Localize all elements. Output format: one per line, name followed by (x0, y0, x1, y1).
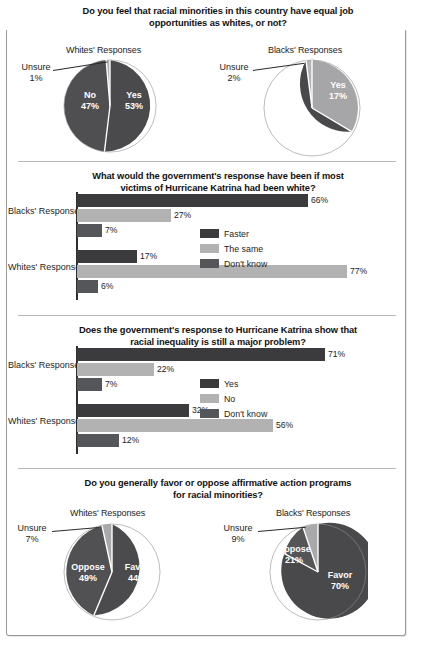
bar-value-whites-same-2: 77% (350, 265, 367, 278)
bar-value-whites-faster-2: 17% (140, 250, 157, 263)
bar-blacks-same-2 (77, 209, 171, 222)
legend-item-the-same: The same (200, 242, 267, 255)
section-divider-2 (18, 315, 396, 316)
bar-blacks-no-3 (77, 363, 154, 376)
section-title-katrina-inequality: Does the government's response to Hurric… (78, 325, 358, 348)
legend-katrina-inequality: Yes No Don't know (200, 377, 267, 422)
legend-swatch-the-same (200, 244, 219, 253)
bar-blacks-dontknow-2 (77, 224, 102, 237)
legend-swatch-dont-know (200, 259, 219, 268)
legend-item-dont-know: Don't know (200, 407, 267, 420)
section-title-katrina-if-white: What would the government's response hav… (78, 171, 358, 194)
legend-item-yes: Yes (200, 377, 267, 390)
pie-chart-blacks-job: Yes 17% No 81% (262, 58, 362, 158)
pie-slice-label-yes: Yes 17% (318, 80, 358, 102)
section-title-affirmative-action: Do you generally favor or oppose affirma… (78, 478, 358, 501)
legend-label-yes: Yes (224, 379, 238, 389)
legend-label-faster: Faster (224, 229, 249, 239)
legend-item-no: No (200, 392, 267, 405)
bar-blacks-faster-2 (77, 194, 308, 207)
legend-swatch-faster (200, 229, 219, 238)
bar-value-blacks-dontknow-2: 7% (105, 224, 117, 237)
bar-value-whites-dontknow-2: 6% (101, 280, 113, 293)
section-divider-3 (18, 468, 396, 469)
panel-label-blacks-1: Blacks' Responses (268, 45, 342, 55)
bar-blacks-dontknow-3 (77, 378, 102, 391)
bar-value-blacks-faster-2: 66% (311, 194, 328, 207)
section-title-job-opportunities: Do you feel that racial minorities in th… (72, 6, 364, 29)
legend-label-dont-know: Don't know (224, 259, 267, 269)
pie-chart-blacks-affirmative: Favor 70% Oppose 21% (268, 522, 368, 622)
pie-slice-label-favor: Favor 70% (318, 570, 362, 592)
pie-slice-label-oppose: Oppose 21% (272, 544, 316, 566)
legend-swatch-yes (200, 379, 219, 388)
callout-unsure-blacks-job: Unsure 2% (212, 62, 256, 84)
bar-blacks-yes-3 (77, 348, 325, 361)
pie-slice-label-favor: Favor 44% (116, 562, 158, 584)
bar-value-whites-no-3: 56% (276, 419, 293, 432)
legend-swatch-no (200, 394, 219, 403)
section-divider-1 (18, 161, 396, 162)
pie-chart-whites-job: Yes 53% No 47% (62, 58, 158, 154)
pie-slice-label-oppose: Oppose 49% (66, 562, 110, 584)
legend-item-dont-know: Don't know (200, 257, 267, 270)
bar-value-blacks-no-3: 22% (157, 363, 174, 376)
panel-label-whites-4: Whites' Responses (70, 508, 145, 518)
bar-group-label-blacks-3: Blacks' Responses (8, 360, 72, 371)
bar-whites-dontknow-2 (77, 280, 98, 293)
panel-label-whites-1: Whites' Responses (66, 45, 141, 55)
bar-whites-dontknow-3 (77, 434, 119, 447)
callout-unsure-whites-affirmative: Unsure 7% (10, 523, 54, 545)
legend-katrina-if-white: Faster The same Don't know (200, 227, 267, 272)
bar-value-whites-dontknow-3: 12% (122, 434, 139, 447)
bar-value-blacks-yes-3: 71% (328, 348, 345, 361)
callout-unsure-blacks-affirmative: Unsure 9% (216, 523, 260, 545)
pie-chart-whites-affirmative: Favor 44% Oppose 49% (62, 522, 162, 622)
bar-value-blacks-same-2: 27% (174, 209, 191, 222)
infographic: Do you feel that racial minorities in th… (0, 0, 435, 650)
legend-item-faster: Faster (200, 227, 267, 240)
pie-slice-label-no: No 47% (70, 90, 110, 112)
bar-whites-faster-2 (77, 250, 137, 263)
bar-value-blacks-dontknow-3: 7% (105, 378, 117, 391)
pie-slice-label-no: No 81% (278, 112, 318, 134)
legend-swatch-dont-know (200, 409, 219, 418)
callout-unsure-whites-job: Unsure 1% (14, 62, 58, 84)
legend-label-the-same: The same (224, 244, 263, 254)
legend-label-no: No (224, 394, 235, 404)
bar-group-label-whites-2: Whites' Responses (8, 262, 72, 273)
bar-whites-yes-3 (77, 404, 189, 417)
legend-label-dont-know: Don't know (224, 409, 267, 419)
bar-group-label-blacks-2: Blacks' Responses (8, 206, 72, 217)
panel-label-blacks-4: Blacks' Responses (276, 508, 350, 518)
pie-slice-label-yes: Yes 53% (114, 90, 154, 112)
pie-svg (262, 58, 362, 158)
bar-group-label-whites-3: Whites' Responses (8, 416, 72, 427)
